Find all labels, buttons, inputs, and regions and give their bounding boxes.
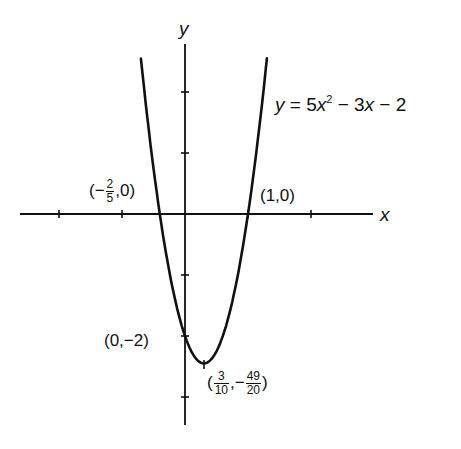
fraction-49-20: 4920 bbox=[246, 370, 261, 396]
equation-label: y = 5x2 − 3x − 2 bbox=[275, 95, 406, 114]
y-intercept-label: (0,−2) bbox=[104, 332, 149, 349]
equation-lhs: y bbox=[275, 94, 285, 115]
equation-var2: x bbox=[365, 94, 375, 115]
root-right-label: (1,0) bbox=[260, 187, 295, 204]
vertex-label: (310,−4920) bbox=[207, 370, 268, 396]
root-left-label: (−25,0) bbox=[89, 178, 135, 204]
equation-tail: − 2 bbox=[374, 94, 406, 115]
parabola-curve bbox=[141, 58, 267, 363]
fraction-three-tenths: 310 bbox=[214, 370, 229, 396]
equation-mid: − 3 bbox=[332, 94, 364, 115]
equation-var1: x bbox=[317, 94, 327, 115]
y-axis-label: y bbox=[179, 19, 189, 38]
fraction-two-fifths: 25 bbox=[106, 178, 115, 204]
x-axis-label: x bbox=[380, 205, 390, 224]
equation-eq: = 5 bbox=[285, 94, 317, 115]
